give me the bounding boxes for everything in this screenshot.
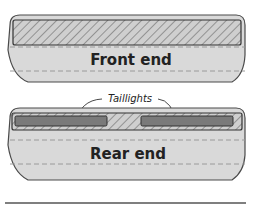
front-grille-hatched <box>13 20 241 45</box>
vehicle-ends-diagram: Front end Taillights Rear end <box>0 0 257 205</box>
front-end-label: Front end <box>90 51 172 69</box>
right-taillight <box>141 116 233 126</box>
rear-end-label: Rear end <box>90 145 166 163</box>
rear-end-view: Rear end <box>8 108 245 180</box>
left-taillight <box>15 116 107 126</box>
taillights-label: Taillights <box>108 93 152 104</box>
front-end-view: Front end <box>8 15 245 82</box>
